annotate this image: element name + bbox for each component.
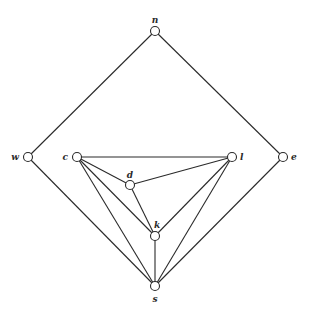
- node-label-d: d: [127, 170, 134, 180]
- edge-d-l: [130, 157, 232, 185]
- edge-w-s: [28, 157, 155, 286]
- edge-n-e: [155, 31, 283, 157]
- node-label-l: l: [240, 152, 244, 162]
- node-c: [73, 153, 82, 162]
- edge-c-s: [77, 157, 155, 286]
- labels-group: nwcdleks: [11, 15, 297, 304]
- graph-diagram: nwcdleks: [0, 0, 309, 315]
- edge-d-k: [130, 185, 155, 236]
- node-label-e: e: [291, 152, 297, 162]
- node-label-s: s: [152, 294, 157, 304]
- node-w: [24, 153, 33, 162]
- edge-e-s: [155, 157, 283, 286]
- edge-l-s: [155, 157, 232, 286]
- node-l: [228, 153, 237, 162]
- edge-c-k: [77, 157, 155, 236]
- node-k: [151, 232, 160, 241]
- node-label-k: k: [154, 220, 160, 230]
- edge-n-w: [28, 31, 155, 157]
- edge-l-k: [155, 157, 232, 236]
- node-e: [279, 153, 288, 162]
- node-s: [151, 282, 160, 291]
- node-n: [151, 27, 160, 36]
- node-label-n: n: [152, 15, 159, 25]
- node-d: [126, 181, 135, 190]
- node-label-c: c: [63, 152, 69, 162]
- node-label-w: w: [11, 152, 19, 162]
